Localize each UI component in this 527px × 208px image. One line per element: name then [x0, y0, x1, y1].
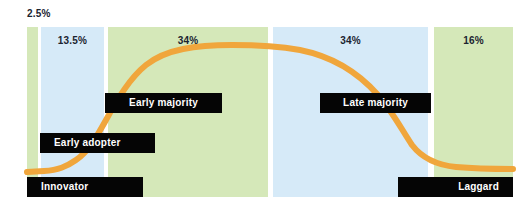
callout-late-majority-label: Late majority [343, 98, 408, 108]
band-early-adopter: 13.5% [41, 27, 104, 197]
innovator-percent-label: 2.5% [27, 8, 51, 19]
callout-laggard: Laggard [398, 177, 513, 197]
band-early-majority-percent: 34% [108, 35, 268, 46]
callout-laggard-label: Laggard [458, 182, 499, 192]
callout-innovator: Innovator [27, 177, 143, 197]
band-laggard: 16% [434, 27, 513, 197]
band-innovator [27, 27, 38, 197]
callout-late-majority: Late majority [320, 93, 431, 113]
callout-early-adopter-label: Early adopter [54, 138, 121, 148]
callout-early-majority-label: Early majority [129, 98, 198, 108]
callout-innovator-label: Innovator [41, 182, 88, 192]
band-late-majority-percent: 34% [273, 35, 428, 46]
band-early-adopter-percent: 13.5% [41, 35, 104, 46]
callout-early-majority: Early majority [105, 93, 222, 113]
callout-early-adopter: Early adopter [40, 133, 155, 153]
adoption-lifecycle-chart: 2.5% 13.5% 34% 34% 16% Early majority La… [0, 0, 527, 208]
band-laggard-percent: 16% [434, 35, 513, 46]
